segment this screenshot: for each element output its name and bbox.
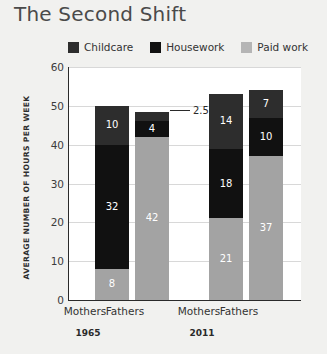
bar-segment[interactable]: 4 <box>135 121 169 137</box>
callout-annotation: 2.5 <box>170 105 209 116</box>
legend-swatch-icon <box>68 42 79 53</box>
bar-segment-value-label: 37 <box>260 223 273 233</box>
bar-mothers-1965[interactable]: 10328 <box>95 106 129 300</box>
bar-segment-value-label: 4 <box>149 124 155 134</box>
y-axis-tick-label: 50 <box>42 100 64 112</box>
y-axis-tick-label: 10 <box>42 255 64 267</box>
bar-fathers-1965[interactable]: 442 <box>135 112 169 300</box>
legend-label: Paid work <box>257 41 308 53</box>
chart-container: The Second Shift ChildcareHouseworkPaid … <box>0 0 327 354</box>
bar-fathers-2011[interactable]: 71037 <box>249 90 283 300</box>
bar-segment[interactable]: 18 <box>209 149 243 219</box>
legend-label: Housework <box>166 41 224 53</box>
y-axis-tick-labels: 6050403020100 <box>38 67 64 300</box>
bar-segment-value-label: 8 <box>109 279 115 289</box>
y-axis-tick-label: 60 <box>42 61 64 73</box>
bar-segment[interactable]: 21 <box>209 218 243 300</box>
y-axis-tick-label: 20 <box>42 216 64 228</box>
bar-segment[interactable]: 14 <box>209 94 243 148</box>
x-axis-category-label: Fathers <box>211 305 267 317</box>
bar-segment[interactable]: 7 <box>249 90 283 117</box>
bar-segment[interactable]: 37 <box>249 156 283 300</box>
bar-mothers-2011[interactable]: 141821 <box>209 94 243 300</box>
bar-segment-value-label: 7 <box>263 99 269 109</box>
bar-segment[interactable]: 32 <box>95 145 129 269</box>
bar-segment-value-label: 42 <box>146 213 159 223</box>
plot-area: 1032844214182171037 <box>68 67 301 301</box>
legend-item: Childcare <box>68 41 133 53</box>
legend-label: Childcare <box>84 41 133 53</box>
gridline <box>69 67 301 68</box>
legend-swatch-icon <box>150 42 161 53</box>
y-axis-title: AVERAGE NUMBER OF HOURS PER WEEK <box>22 88 31 288</box>
y-axis-tick-label: 40 <box>42 139 64 151</box>
y-axis-tick-label: 30 <box>42 178 64 190</box>
bar-segment-value-label: 18 <box>220 179 233 189</box>
bar-segment-value-label: 32 <box>106 202 119 212</box>
bar-segment-value-label: 10 <box>106 120 119 130</box>
legend-item: Paid work <box>241 41 308 53</box>
chart-title: The Second Shift <box>14 2 186 26</box>
x-axis-category-label: Fathers <box>97 305 153 317</box>
x-axis-group-label: 2011 <box>157 328 247 338</box>
x-axis-group-label: 1965 <box>43 328 133 338</box>
bar-segment[interactable]: 8 <box>95 269 129 300</box>
bar-segment-value-label: 14 <box>220 116 233 126</box>
bar-segment-value-label: 21 <box>220 254 233 264</box>
callout-label: 2.5 <box>193 105 209 116</box>
legend-item: Housework <box>150 41 224 53</box>
legend-swatch-icon <box>241 42 252 53</box>
bar-segment[interactable]: 10 <box>249 118 283 157</box>
callout-leader-line <box>170 110 190 112</box>
bar-segment[interactable]: 42 <box>135 137 169 300</box>
bar-segment[interactable] <box>135 112 169 122</box>
bar-segment-value-label: 10 <box>260 132 273 142</box>
bar-segment[interactable]: 10 <box>95 106 129 145</box>
chart-legend: ChildcareHouseworkPaid work <box>68 39 308 55</box>
